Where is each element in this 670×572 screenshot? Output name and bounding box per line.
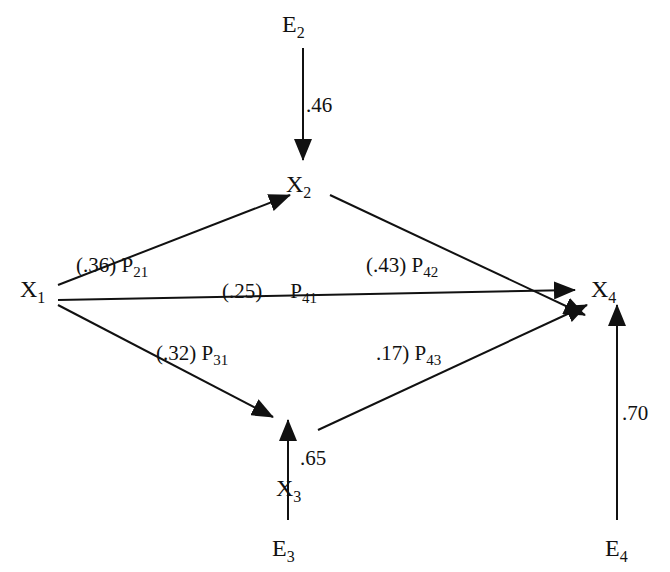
path-diagram: E2 X2 X1 X4 X3 E3 E4 .46 (.36) P21 (.43)… [0,0,670,572]
node-x2: X2 [286,171,311,201]
coef-p31: (.32) P31 [156,341,228,368]
node-x1: X1 [20,276,45,306]
coef-e4-x4: .70 [622,401,648,425]
node-x4: X4 [591,276,616,306]
node-e2: E2 [282,11,305,41]
node-e4: E4 [605,535,628,565]
node-x3: X3 [276,475,301,505]
coef-e2-x2: .46 [306,93,332,117]
coef-p21: (.36) P21 [76,253,148,280]
coef-p42: (.43) P42 [366,253,438,280]
coef-e3-x3: .65 [300,446,326,470]
edge-x3-x4 [318,305,587,430]
coef-p43: .17) P43 [376,341,441,368]
coef-p41: (.25)P41 [222,279,317,306]
node-e3: E3 [272,535,295,565]
